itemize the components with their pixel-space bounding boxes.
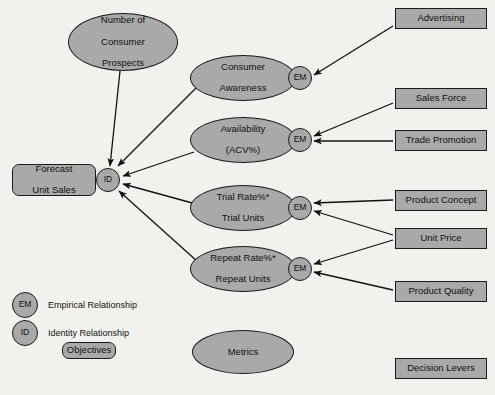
node-id-relationship[interactable]: ID [96, 168, 120, 192]
node-em-repeat[interactable]: EM [288, 257, 312, 281]
node-advertising[interactable]: Advertising [395, 8, 487, 29]
node-em-trial[interactable]: EM [288, 196, 312, 220]
edge-number-of-consumer-prospects-to-id-node [110, 71, 120, 166]
edge-product-quality-to-em-repeat [314, 272, 393, 290]
node-unit-price[interactable]: Unit Price [395, 228, 487, 249]
node-em-consumer-awareness[interactable]: EM [288, 66, 312, 90]
edge-consumer-awareness-to-id-node [118, 88, 196, 166]
legend-metrics-key[interactable]: Metrics [192, 330, 294, 374]
edge-unit-price-to-em-trial [314, 211, 393, 235]
edge-product-concept-to-em-trial [314, 200, 393, 203]
edge-sales-force-to-em-availability [314, 103, 393, 136]
legend-id-icon: ID [12, 320, 38, 346]
legend-em-label: Empirical Relationship [48, 300, 137, 310]
legend-id-label: Identity Relationship [48, 328, 129, 338]
diagram-canvas: ForecastUnit Sales Number ofConsumerPros… [0, 0, 495, 395]
edge-unit-price-to-em-repeat [314, 240, 393, 264]
legend-objectives-key[interactable]: Objectives [62, 342, 116, 359]
legend-em-icon: EM [12, 292, 38, 318]
edge-advertising-to-em-awareness [314, 26, 393, 75]
node-sales-force[interactable]: Sales Force [395, 88, 487, 109]
node-repeat-rate-repeat-units[interactable]: Repeat Rate%*Repeat Units [190, 246, 296, 292]
node-forecast-unit-sales[interactable]: ForecastUnit Sales [12, 164, 96, 196]
node-em-availability[interactable]: EM [288, 128, 312, 152]
node-trade-promotion[interactable]: Trade Promotion [395, 130, 487, 151]
node-consumer-awareness[interactable]: ConsumerAwareness [190, 55, 296, 101]
node-number-of-consumer-prospects[interactable]: Number ofConsumerProspects [68, 13, 178, 71]
edge-availability-acv-to-id-node [123, 152, 194, 176]
node-trial-rate-trial-units[interactable]: Trial Rate%*Trial Units [190, 185, 296, 231]
node-availability-acv[interactable]: Availability(ACV%) [190, 117, 296, 163]
legend-decision-levers-key[interactable]: Decision Levers [395, 358, 487, 379]
node-product-quality[interactable]: Product Quality [395, 281, 487, 302]
edge-trial-rate-trial-units-to-id-node [123, 184, 196, 204]
node-product-concept[interactable]: Product Concept [395, 190, 487, 211]
